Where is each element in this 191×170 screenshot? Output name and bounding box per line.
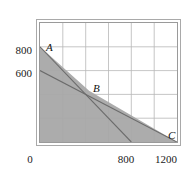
- vertex-label-a: A: [46, 42, 53, 53]
- plot-area: [40, 23, 177, 142]
- vertex-label-b: B: [93, 83, 100, 94]
- chart-screenshot: 800 600 0 800 1200 A B C: [0, 0, 191, 170]
- y-tick-label-600: 600: [2, 68, 32, 79]
- x-tick-label-800: 800: [112, 154, 140, 165]
- x-tick-label-1200: 1200: [150, 154, 182, 165]
- x-tick-label-0: 0: [20, 154, 40, 165]
- plot-svg: [40, 23, 177, 142]
- y-tick-label-800: 800: [2, 45, 32, 56]
- vertex-label-c: C: [168, 130, 175, 141]
